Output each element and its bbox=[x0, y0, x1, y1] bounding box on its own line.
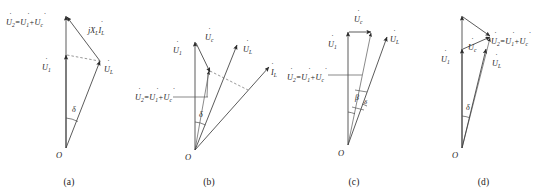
label-u1-c: U1 bbox=[328, 40, 337, 50]
phasor-figure: U2=U1+Uc ̇ ̇ ̇ U1 ̇ UL ̇ jXLIL ̇ δ O bbox=[0, 0, 547, 191]
dot-accent-uc-sum-b: ̇ bbox=[173, 88, 175, 89]
label-delta-c: δ bbox=[364, 98, 368, 105]
angle-tick-lower-c bbox=[352, 107, 364, 110]
phasor-panel-d: U1 ̇ Uc ̇ U2=U1+Uc ̇ ̇ ̇ UL ̇ δ O bbox=[420, 0, 547, 191]
label-origin-d: O bbox=[452, 150, 458, 160]
vector-il bbox=[195, 67, 269, 150]
label-u1-d: U1 bbox=[441, 55, 450, 65]
caption-b: (b) bbox=[133, 177, 285, 187]
label-u2-sum-a: U2=U1+Uc bbox=[6, 18, 43, 28]
dot-accent-u2-d: ̇ bbox=[495, 32, 497, 33]
phasor-diagram-a: U2=U1+Uc ̇ ̇ ̇ U1 ̇ UL ̇ jXLIL ̇ δ O bbox=[0, 0, 138, 170]
angle-arc-delta-d bbox=[462, 116, 470, 118]
caption-c: (c) bbox=[286, 177, 422, 187]
phasor-panel-c: Uc ̇ U1 ̇ UL ̇ U2=U1+Uc ̇ ̇ ̇ β δ bbox=[286, 0, 422, 191]
caption-a: (a) bbox=[0, 177, 138, 187]
dot-accent-u2-b: ̇ bbox=[139, 88, 141, 89]
angle-arc-delta-c bbox=[348, 112, 355, 114]
dot-accent-ul-d: ̇ bbox=[496, 54, 498, 55]
dot-accent-u2-a: ̇ bbox=[10, 13, 12, 14]
dot-accent-uc-sum-c: ̇ bbox=[325, 68, 327, 69]
dot-accent-u1-sum-d: ̇ bbox=[513, 32, 515, 33]
label-u2-sum-d: U2=U1+Uc bbox=[491, 37, 528, 47]
vector-u2 bbox=[348, 33, 371, 145]
dot-accent-il-a: ̇ bbox=[101, 21, 103, 22]
label-ul-a: UL bbox=[104, 65, 113, 75]
dashed-projection-b bbox=[210, 71, 248, 90]
label-uc-c: Uc bbox=[354, 15, 363, 25]
dot-accent-u1-sum-b: ̇ bbox=[157, 88, 159, 89]
dot-accent-u1-vec-a: ̇ bbox=[46, 58, 48, 59]
dot-accent-ul-a: ̇ bbox=[108, 60, 110, 61]
phasor-diagram-d: U1 ̇ Uc ̇ U2=U1+Uc ̇ ̇ ̇ UL ̇ δ O bbox=[420, 0, 547, 170]
label-delta-a: δ bbox=[72, 105, 76, 114]
label-jxl-il-a: jXLIL bbox=[87, 26, 104, 36]
leader-u2-b bbox=[207, 73, 208, 97]
label-delta-b: δ bbox=[199, 110, 203, 119]
label-ul-c: UL bbox=[390, 35, 399, 45]
label-ul-d: UL bbox=[492, 59, 501, 69]
caption-d: (d) bbox=[420, 177, 547, 187]
angle-tick-upper-c bbox=[355, 90, 367, 92]
vector-ul bbox=[348, 37, 387, 145]
label-u2-sum-c: U2=U1+Uc bbox=[287, 73, 324, 83]
dot-accent-uc-a: ̇ bbox=[44, 13, 46, 14]
vector-ul bbox=[195, 45, 237, 150]
dot-accent-u1-d: ̇ bbox=[445, 50, 447, 51]
dot-accent-u1-c: ̇ bbox=[332, 35, 334, 36]
label-uc-b: Uc bbox=[205, 33, 214, 43]
vector-ul bbox=[462, 49, 486, 148]
dot-accent-uc-d: ̇ bbox=[472, 38, 474, 39]
label-u1-b: U1 bbox=[173, 46, 182, 56]
phasor-panel-a: U2=U1+Uc ̇ ̇ ̇ U1 ̇ UL ̇ jXLIL ̇ δ O bbox=[0, 0, 138, 191]
dot-accent-uc-c: ̇ bbox=[358, 10, 360, 11]
label-origin-a: O bbox=[56, 150, 62, 160]
dot-accent-ul-b: ̇ bbox=[247, 40, 249, 41]
label-u2-sum-b: U2=U1+Uc bbox=[135, 93, 172, 103]
label-beta-c: β bbox=[354, 93, 359, 102]
dot-accent-u2-c: ̇ bbox=[291, 68, 293, 69]
vector-uc bbox=[196, 43, 210, 72]
dot-accent-il-b: ̇ bbox=[272, 63, 274, 64]
angle-arc-delta-b bbox=[195, 122, 206, 125]
dot-accent-uc-sum-d: ̇ bbox=[529, 32, 531, 33]
label-delta-d: δ bbox=[466, 103, 470, 112]
angle-arc-delta-a bbox=[66, 118, 78, 122]
label-uc-d: Uc bbox=[468, 43, 477, 53]
phasor-diagram-c: Uc ̇ U1 ̇ UL ̇ U2=U1+Uc ̇ ̇ ̇ β δ bbox=[286, 0, 422, 170]
label-origin-c: O bbox=[338, 148, 344, 158]
dot-accent-u1-b: ̇ bbox=[177, 41, 179, 42]
phasor-diagram-b: U1 ̇ Uc ̇ UL ̇ IL ̇ U2=U1+Uc ̇ ̇ bbox=[133, 0, 285, 170]
phasor-panel-b: U1 ̇ Uc ̇ UL ̇ IL ̇ U2=U1+Uc ̇ ̇ bbox=[133, 0, 285, 191]
dot-accent-u1-sum-c: ̇ bbox=[309, 68, 311, 69]
dot-accent-u1-a: ̇ bbox=[28, 13, 30, 14]
label-u1-a: U1 bbox=[42, 63, 51, 73]
dot-accent-ul-c: ̇ bbox=[394, 30, 396, 31]
dot-accent-uc-b: ̇ bbox=[209, 28, 211, 29]
vector-uc-upper bbox=[463, 17, 490, 36]
label-origin-b: O bbox=[185, 152, 191, 162]
label-il-b: IL bbox=[270, 68, 277, 78]
label-ul-b: UL bbox=[243, 45, 252, 55]
vector-jxl-il bbox=[67, 17, 100, 61]
dashed-projection-a bbox=[67, 55, 99, 61]
